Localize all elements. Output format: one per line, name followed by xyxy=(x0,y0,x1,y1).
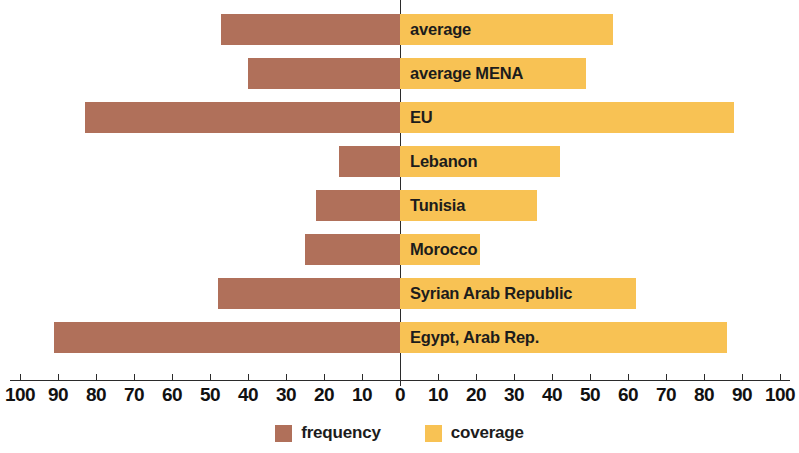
axis-tick xyxy=(438,374,439,381)
row-label: EU xyxy=(403,102,433,133)
axis-tick xyxy=(476,374,477,381)
axis-tick xyxy=(20,374,21,381)
axis-tick xyxy=(96,374,97,381)
axis-tick xyxy=(210,374,211,381)
table-row: Lebanon xyxy=(0,146,799,177)
bar-frequency xyxy=(339,146,400,177)
axis-tick xyxy=(248,374,249,381)
table-row: average xyxy=(0,14,799,45)
bar-frequency xyxy=(54,322,400,353)
axis-tick xyxy=(590,374,591,381)
legend-label: frequency xyxy=(301,423,380,443)
row-label: average MENA xyxy=(403,58,523,89)
table-row: Morocco xyxy=(0,234,799,265)
bar-frequency xyxy=(305,234,400,265)
axis-tick xyxy=(286,374,287,381)
axis-tick xyxy=(514,374,515,381)
plot-area: averageaverage MENAEULebanonTunisiaMoroc… xyxy=(0,0,799,386)
legend-swatch-icon xyxy=(275,425,292,442)
axis-tick xyxy=(628,374,629,381)
bar-coverage xyxy=(400,102,734,133)
bar-frequency xyxy=(221,14,400,45)
table-row: Egypt, Arab Rep. xyxy=(0,322,799,353)
axis-tick xyxy=(134,374,135,381)
axis-tick xyxy=(742,374,743,381)
legend-item[interactable]: frequency xyxy=(275,423,380,443)
axis-tick xyxy=(400,374,401,381)
row-label: Morocco xyxy=(403,234,477,265)
axis-tick xyxy=(704,374,705,381)
table-row: Syrian Arab Republic xyxy=(0,278,799,309)
axis-tick xyxy=(552,374,553,381)
legend-swatch-icon xyxy=(425,425,442,442)
table-row: EU xyxy=(0,102,799,133)
row-label: Egypt, Arab Rep. xyxy=(403,322,539,353)
row-label: Syrian Arab Republic xyxy=(403,278,572,309)
diverging-bar-chart: averageaverage MENAEULebanonTunisiaMoroc… xyxy=(0,0,799,453)
axis-tick xyxy=(58,374,59,381)
row-label: average xyxy=(403,14,471,45)
x-axis: 1009080706050403020100102030405060708090… xyxy=(0,380,799,416)
axis-tick xyxy=(666,374,667,381)
legend-label: coverage xyxy=(451,423,524,443)
bar-frequency xyxy=(316,190,400,221)
axis-tick xyxy=(172,374,173,381)
axis-tick xyxy=(324,374,325,381)
table-row: Tunisia xyxy=(0,190,799,221)
bar-frequency xyxy=(218,278,400,309)
table-row: average MENA xyxy=(0,58,799,89)
row-label: Tunisia xyxy=(403,190,465,221)
row-label: Lebanon xyxy=(403,146,477,177)
chart-legend: frequencycoverage xyxy=(0,420,799,446)
axis-tick xyxy=(362,374,363,381)
bar-frequency xyxy=(248,58,400,89)
axis-tick xyxy=(780,374,781,381)
axis-tick-label: 100 xyxy=(750,384,799,406)
bar-frequency xyxy=(85,102,400,133)
legend-item[interactable]: coverage xyxy=(425,423,524,443)
